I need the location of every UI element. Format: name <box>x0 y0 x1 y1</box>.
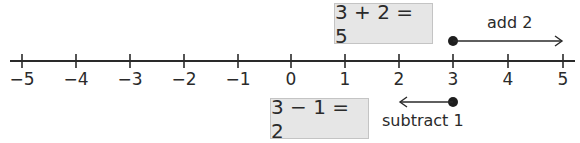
tick-label: −2 <box>171 69 196 89</box>
tick-label: 0 <box>286 69 297 89</box>
tick-label: 3 <box>448 69 459 89</box>
tick-label: −4 <box>63 69 88 89</box>
tick-label: 5 <box>558 69 569 89</box>
subtract-arrow <box>400 97 458 107</box>
subtraction-equation-box: 3 − 1 = 2 <box>270 98 369 139</box>
tick-label: 1 <box>340 69 351 89</box>
tick-label: 2 <box>394 69 405 89</box>
subtract-label: subtract 1 <box>382 111 464 130</box>
tick-label: 4 <box>503 69 514 89</box>
add-label: add 2 <box>487 13 532 32</box>
addition-equation: 3 + 2 = 5 <box>335 0 432 48</box>
subtraction-equation: 3 − 1 = 2 <box>271 95 368 143</box>
tick-label: −1 <box>225 69 250 89</box>
tick-label: −5 <box>9 69 34 89</box>
add-arrow <box>448 36 562 46</box>
addition-equation-box: 3 + 2 = 5 <box>334 3 433 44</box>
tick-label: −3 <box>117 69 142 89</box>
